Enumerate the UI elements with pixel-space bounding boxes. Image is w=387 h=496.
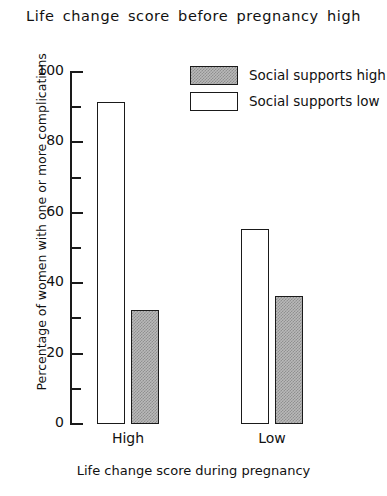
- legend-item: Social supports low: [190, 88, 386, 114]
- legend-swatch: [190, 66, 238, 85]
- plot-area: [70, 72, 370, 424]
- x-axis-category-label: High: [68, 430, 188, 446]
- bar: [241, 229, 269, 424]
- legend-label: Social supports high: [249, 67, 386, 83]
- bar: [131, 310, 159, 424]
- bar: [97, 102, 125, 424]
- bar: [275, 296, 303, 424]
- x-axis-category-label: Low: [212, 430, 332, 446]
- y-axis-tick-label: 80: [26, 133, 64, 147]
- x-axis-title: Life change score during pregnancy: [0, 463, 387, 478]
- y-axis-tick-label: 40: [26, 274, 64, 288]
- y-axis-tick-label: 100: [26, 63, 64, 77]
- legend-swatch: [190, 92, 238, 111]
- legend-label: Social supports low: [249, 93, 380, 109]
- y-axis-tick-label: 20: [26, 345, 64, 359]
- y-axis-tick-labels: 020406080100: [20, 0, 64, 496]
- y-axis-tick-label: 60: [26, 204, 64, 218]
- legend-item: Social supports high: [190, 62, 386, 88]
- chart-legend: Social supports highSocial supports low: [190, 62, 386, 114]
- y-axis-tick-label: 0: [26, 415, 64, 429]
